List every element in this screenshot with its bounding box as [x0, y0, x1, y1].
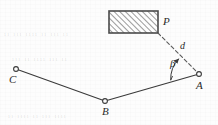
- diagram-svg: [0, 0, 218, 125]
- hatched-rectangle: [109, 11, 158, 33]
- label-point-p: P: [163, 16, 170, 27]
- label-point-b: B: [102, 106, 109, 117]
- dashed-segment-d: [158, 33, 199, 74]
- figure-canvas: ıı ııı ıııı ıı ııı ıı ııı ıı ıııı ııı ıı…: [0, 0, 218, 125]
- point-marker-b: [103, 99, 108, 104]
- segment-b-a: [105, 74, 199, 101]
- label-point-c: C: [9, 74, 16, 85]
- point-marker-c: [14, 67, 19, 72]
- point-marker-a: [197, 72, 202, 77]
- segment-c-b: [16, 69, 105, 101]
- label-point-a: A: [196, 80, 203, 91]
- label-distance-d: d: [180, 41, 185, 51]
- label-angle-beta: β: [170, 58, 175, 69]
